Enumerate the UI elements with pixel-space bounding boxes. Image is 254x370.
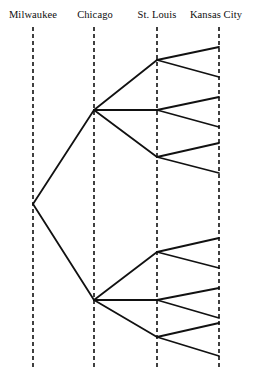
column-label-chicago: Chicago bbox=[77, 10, 113, 21]
tree-edge-s2-k3 bbox=[157, 97, 219, 110]
tree-edge-s3-k5 bbox=[157, 143, 219, 157]
tree-edge-c1-s3 bbox=[94, 110, 157, 157]
tree-edge-s5-k9 bbox=[157, 288, 219, 300]
column-label-kansascity: Kansas City bbox=[190, 10, 242, 21]
tree-edge-m0-c2 bbox=[33, 204, 94, 300]
tree-edge-s2-k4 bbox=[157, 110, 219, 127]
tree-edge-s3-k6 bbox=[157, 157, 219, 173]
tree-edge-c2-s4 bbox=[94, 252, 157, 300]
column-label-milwaukee: Milwaukee bbox=[9, 10, 57, 21]
column-label-stlouis: St. Louis bbox=[138, 10, 177, 21]
column-axis-lines bbox=[33, 27, 219, 369]
tree-edge-s6-k12 bbox=[157, 337, 219, 356]
tree-edge-s4-k8 bbox=[157, 252, 219, 268]
tree-edge-s4-k7 bbox=[157, 238, 219, 252]
tree-edge-c1-s1 bbox=[94, 60, 157, 110]
tree-edge-s1-k1 bbox=[157, 47, 219, 60]
tree-edge-s1-k2 bbox=[157, 60, 219, 77]
tree-edge-m0-c1 bbox=[33, 110, 94, 204]
tree-edge-s6-k11 bbox=[157, 323, 219, 337]
tree-diagram-canvas: MilwaukeeChicagoSt. LouisKansas City bbox=[0, 0, 254, 370]
tree-svg bbox=[0, 0, 254, 370]
tree-edge-s5-k10 bbox=[157, 300, 219, 318]
tree-edge-c2-s6 bbox=[94, 300, 157, 337]
tree-edges bbox=[33, 47, 219, 356]
